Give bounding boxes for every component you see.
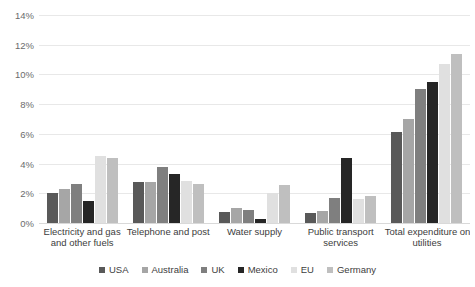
bar — [47, 193, 58, 223]
bar — [439, 64, 450, 223]
bar-chart: 14%12%10%8%6%4%2%0% Electricity and gasa… — [0, 0, 475, 287]
legend-item-eu[interactable]: EU — [291, 264, 314, 275]
legend-label: UK — [211, 264, 224, 275]
bar — [83, 201, 94, 223]
legend-item-usa[interactable]: USA — [99, 264, 129, 275]
bar — [365, 196, 376, 223]
bar-group — [125, 15, 211, 223]
bar — [181, 181, 192, 223]
bar-group — [298, 15, 384, 223]
x-axis-category-label: Public transportservices — [298, 226, 384, 248]
bar — [107, 158, 118, 223]
legend-item-mexico[interactable]: Mexico — [238, 264, 278, 275]
legend-swatch-icon — [238, 267, 244, 273]
bar — [391, 132, 402, 223]
y-axis-tick-label: 0% — [20, 218, 34, 229]
bar — [145, 182, 156, 223]
y-axis-tick-label: 8% — [20, 99, 34, 110]
bar — [353, 199, 364, 223]
y-axis-tick-label: 14% — [15, 10, 34, 21]
bar-group — [384, 15, 470, 223]
x-axis-category-label-line: Public transport — [299, 226, 383, 237]
x-axis-category-label-line: Total expenditure on — [385, 226, 469, 237]
bar-group — [39, 15, 125, 223]
legend-label: USA — [109, 264, 129, 275]
gridline — [39, 223, 470, 224]
bar — [95, 156, 106, 223]
bar-groups — [39, 15, 470, 223]
bar — [427, 82, 438, 223]
y-axis-tick-label: 10% — [15, 69, 34, 80]
bar — [219, 212, 230, 223]
x-axis-category-label-line: Electricity and gas — [40, 226, 124, 237]
legend-item-uk[interactable]: UK — [201, 264, 224, 275]
bar — [243, 210, 254, 223]
bar — [341, 158, 352, 223]
bar — [231, 208, 242, 223]
legend-item-australia[interactable]: Australia — [142, 264, 189, 275]
legend-swatch-icon — [99, 267, 105, 273]
y-axis-labels: 14%12%10%8%6%4%2%0% — [0, 15, 34, 223]
bar — [59, 189, 70, 223]
bar — [267, 193, 278, 223]
legend-label: Australia — [152, 264, 189, 275]
x-axis-category-label: Telephone and post — [125, 226, 211, 248]
x-axis-category-label-line: Telephone and post — [126, 226, 210, 237]
legend-swatch-icon — [201, 267, 207, 273]
bar — [169, 174, 180, 223]
x-axis-category-label-line: Water supply — [212, 226, 296, 237]
y-axis-tick-label: 6% — [20, 128, 34, 139]
legend-swatch-icon — [142, 267, 148, 273]
x-axis-category-label: Water supply — [211, 226, 297, 248]
bar — [451, 54, 462, 223]
bar — [403, 119, 414, 223]
bar — [157, 167, 168, 223]
bar — [133, 182, 144, 223]
legend-label: Mexico — [248, 264, 278, 275]
bar-group — [211, 15, 297, 223]
y-axis-tick-label: 2% — [20, 188, 34, 199]
x-axis-category-label: Total expenditure onutilities — [384, 226, 470, 248]
legend-label: EU — [301, 264, 314, 275]
legend-label: Germany — [337, 264, 376, 275]
y-axis-tick-label: 4% — [20, 158, 34, 169]
bar — [329, 198, 340, 223]
legend-item-germany[interactable]: Germany — [327, 264, 376, 275]
bar — [193, 184, 204, 223]
bar — [279, 185, 290, 223]
bar — [305, 213, 316, 223]
chart-legend: USAAustraliaUKMexicoEUGermany — [0, 264, 475, 275]
x-axis-category-labels: Electricity and gasand other fuelsTeleph… — [39, 226, 470, 248]
x-axis-category-label-line: services — [299, 237, 383, 248]
legend-swatch-icon — [327, 267, 333, 273]
x-axis-category-label: Electricity and gasand other fuels — [39, 226, 125, 248]
bar — [415, 89, 426, 223]
bar — [317, 211, 328, 223]
legend-swatch-icon — [291, 267, 297, 273]
bar — [71, 184, 82, 223]
y-axis-tick-label: 12% — [15, 39, 34, 50]
x-axis-category-label-line: and other fuels — [40, 237, 124, 248]
bar — [255, 219, 266, 223]
x-axis-category-label-line: utilities — [385, 237, 469, 248]
